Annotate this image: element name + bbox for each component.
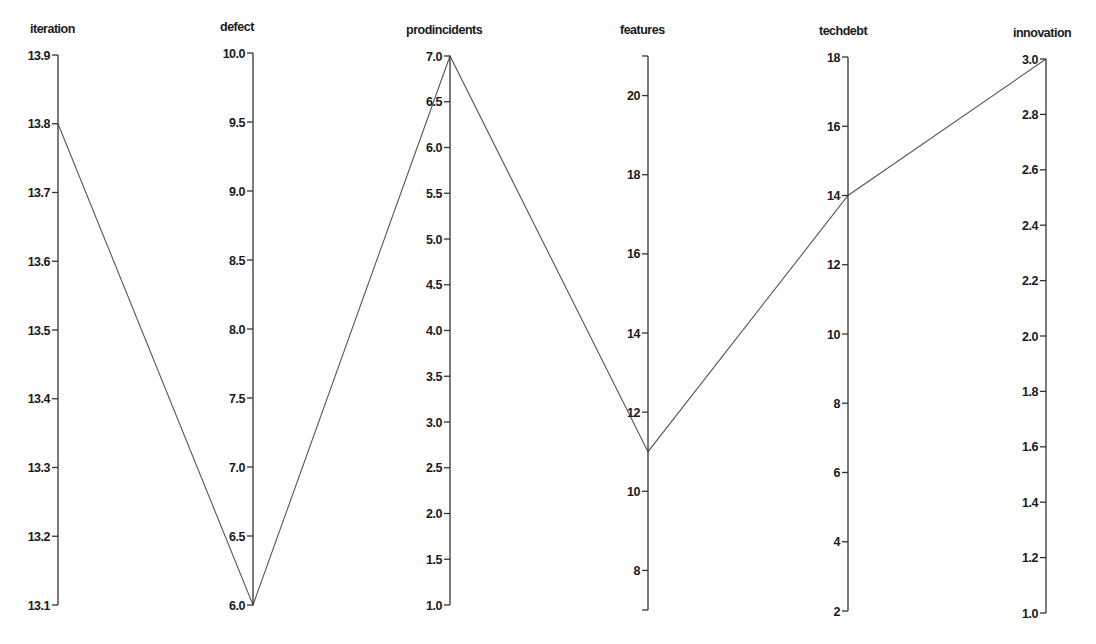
tick-label: 2.6 (1022, 163, 1038, 177)
parallel-coordinates-chart: iteration13.113.213.313.413.513.613.713.… (0, 0, 1096, 644)
tick-label: 1.6 (1022, 440, 1038, 454)
tick-label: 4.5 (426, 278, 442, 292)
tick-label: 13.8 (28, 117, 51, 131)
tick-label: 8 (634, 564, 641, 578)
tick-label: 10.0 (223, 47, 246, 61)
tick-label: 1.4 (1022, 496, 1038, 510)
tick-label: 13.4 (28, 392, 51, 406)
axis-title: innovation (1013, 26, 1071, 40)
tick-label: 16 (827, 120, 840, 134)
tick-label: 10 (827, 328, 840, 342)
tick-label: 3.0 (1022, 53, 1038, 67)
tick-label: 1.2 (1022, 551, 1038, 565)
tick-label: 7.5 (229, 392, 245, 406)
tick-label: 2.4 (1022, 219, 1038, 233)
tick-label: 13.1 (28, 599, 51, 613)
tick-label: 12 (627, 406, 640, 420)
axis-prodincidents: prodincidents1.01.52.02.53.03.54.04.55.0… (406, 23, 483, 613)
tick-label: 18 (627, 168, 640, 182)
tick-label: 9.5 (229, 116, 245, 130)
axis-title: iteration (30, 22, 75, 36)
tick-label: 3.5 (426, 370, 442, 384)
tick-label: 6 (834, 466, 841, 480)
tick-label: 4 (834, 535, 841, 549)
tick-label: 2.0 (426, 507, 442, 521)
tick-label: 2 (834, 605, 841, 619)
axis-techdebt: techdebt24681012141618 (819, 24, 868, 619)
tick-label: 13.2 (28, 530, 51, 544)
tick-label: 1.0 (426, 599, 442, 613)
tick-label: 6.5 (426, 95, 442, 109)
tick-label: 1.0 (1022, 607, 1038, 621)
tick-label: 13.6 (28, 255, 51, 269)
axis-title: features (620, 23, 665, 37)
tick-label: 6.0 (426, 141, 442, 155)
tick-label: 5.0 (426, 233, 442, 247)
tick-label: 1.8 (1022, 385, 1038, 399)
tick-label: 6.0 (229, 599, 245, 613)
tick-label: 2.5 (426, 461, 442, 475)
axis-iteration: iteration13.113.213.313.413.513.613.713.… (28, 22, 75, 613)
tick-label: 2.8 (1022, 108, 1038, 122)
tick-label: 20 (627, 89, 640, 103)
axis-features: features8101214161820 (620, 23, 665, 610)
tick-label: 14 (827, 189, 840, 203)
tick-label: 18 (827, 51, 840, 65)
tick-label: 12 (827, 258, 840, 272)
tick-label: 1.5 (426, 553, 442, 567)
tick-label: 13.9 (28, 49, 51, 63)
tick-label: 3.0 (426, 416, 442, 430)
tick-label: 2.2 (1022, 274, 1038, 288)
tick-label: 9.0 (229, 185, 245, 199)
tick-label: 13.5 (28, 324, 51, 338)
tick-label: 2.0 (1022, 330, 1038, 344)
record-line (58, 56, 1046, 605)
tick-label: 13.3 (28, 461, 51, 475)
axis-innovation: innovation1.01.21.41.61.82.02.22.42.62.8… (1013, 26, 1071, 621)
tick-label: 13.7 (28, 186, 51, 200)
axis-title: techdebt (819, 24, 868, 38)
axis-title: defect (220, 20, 255, 34)
tick-label: 16 (627, 247, 640, 261)
axis-defect: defect6.06.57.07.58.08.59.09.510.0 (220, 20, 255, 613)
axes: iteration13.113.213.313.413.513.613.713.… (28, 20, 1072, 621)
tick-label: 6.5 (229, 530, 245, 544)
axis-title: prodincidents (406, 23, 483, 37)
tick-label: 14 (627, 327, 640, 341)
tick-label: 4.0 (426, 324, 442, 338)
tick-label: 8.5 (229, 254, 245, 268)
tick-label: 7.0 (426, 50, 442, 64)
data-lines (58, 56, 1046, 605)
tick-label: 8 (834, 397, 841, 411)
tick-label: 7.0 (229, 461, 245, 475)
tick-label: 8.0 (229, 323, 245, 337)
tick-label: 10 (627, 485, 640, 499)
tick-label: 5.5 (426, 187, 442, 201)
